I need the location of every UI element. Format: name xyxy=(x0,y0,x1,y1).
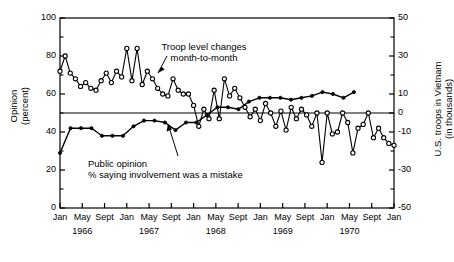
troop-series-point xyxy=(217,117,221,121)
troop-series-point xyxy=(310,124,314,128)
troop-series-point xyxy=(371,136,375,140)
troop-series-point xyxy=(341,111,345,115)
troop-series-point xyxy=(181,92,185,96)
troop-series-point xyxy=(330,132,334,136)
opinion-series-point xyxy=(58,151,61,154)
troop-series-point xyxy=(84,81,88,85)
troop-series-point xyxy=(284,128,288,132)
troop-series-point xyxy=(192,103,196,107)
troop-series-point xyxy=(356,126,360,130)
opinion-series-point xyxy=(352,91,355,94)
troop-series-point xyxy=(150,77,154,81)
troop-series-point xyxy=(392,143,396,147)
troop-series-point xyxy=(135,46,139,50)
troop-series-point xyxy=(366,111,370,115)
troop-series-point xyxy=(104,71,108,75)
troop-series-point xyxy=(325,111,329,115)
troop-series-point xyxy=(279,109,283,113)
troop-series-point xyxy=(186,92,190,96)
troop-series-point xyxy=(248,115,252,119)
troop-series-point xyxy=(140,82,144,86)
opinion-series-point xyxy=(90,127,93,130)
troop-series-point xyxy=(320,160,324,164)
opinion-series-point xyxy=(289,98,292,101)
troop-series-point xyxy=(94,88,98,92)
troop-series-point xyxy=(166,94,170,98)
troop-series-point xyxy=(269,111,273,115)
opinion-series-point xyxy=(279,96,282,99)
troop-series-point xyxy=(109,81,113,85)
troop-series-point xyxy=(125,46,129,50)
troop-series-point xyxy=(351,151,355,155)
opinion-series-point xyxy=(121,134,124,137)
opinion-series-point xyxy=(247,100,250,103)
troop-series-point xyxy=(202,107,206,111)
troop-series-point xyxy=(294,117,298,121)
opinion-series-point xyxy=(132,125,135,128)
opinion-series-point xyxy=(174,129,177,132)
troop-series-line xyxy=(60,48,394,162)
troop-series-point xyxy=(305,113,309,117)
troop-series-point xyxy=(274,124,278,128)
troop-series-point xyxy=(114,69,118,73)
troop-series-point xyxy=(346,120,350,124)
troop-series-point xyxy=(161,92,165,96)
opinion-series-point xyxy=(100,134,103,137)
opinion-series-point xyxy=(184,121,187,124)
troop-series-point xyxy=(238,96,242,100)
troop-series-point xyxy=(120,75,124,79)
opinion-series-point xyxy=(226,106,229,109)
troop-series-point xyxy=(233,86,237,90)
troop-series-point xyxy=(382,136,386,140)
opinion-series-point xyxy=(310,94,313,97)
opinion-series-point xyxy=(237,108,240,111)
troop-series-point xyxy=(387,141,391,145)
troop-series-point xyxy=(63,54,67,58)
troop-series-point xyxy=(58,69,62,73)
opinion-series-point xyxy=(195,121,198,124)
opinion-series-point xyxy=(111,134,114,137)
troop-series-point xyxy=(299,107,303,111)
opinion-series-point xyxy=(79,127,82,130)
opinion-series-point xyxy=(321,91,324,94)
troop-series-point xyxy=(78,84,82,88)
troop-series-point xyxy=(176,88,180,92)
opinion-series-point xyxy=(258,96,261,99)
opinion-series-point xyxy=(216,106,219,109)
troop-series-point xyxy=(73,77,77,81)
troop-series-point xyxy=(68,71,72,75)
troop-series-point xyxy=(89,86,93,90)
troop-annotation-arrowhead xyxy=(158,67,165,74)
troop-series-point xyxy=(376,126,380,130)
opinion-series-point xyxy=(300,96,303,99)
troop-series-point xyxy=(335,130,339,134)
troop-series-point xyxy=(263,101,267,105)
troop-series-point xyxy=(222,77,226,81)
opinion-series-point xyxy=(268,96,271,99)
opinion-series-point xyxy=(163,121,166,124)
troop-series-point xyxy=(99,79,103,83)
troop-series-point xyxy=(315,111,319,115)
opinion-series-point xyxy=(153,119,156,122)
opinion-series-point xyxy=(205,113,208,116)
opinion-series-point xyxy=(331,92,334,95)
troop-series-point xyxy=(145,69,149,73)
troop-series-point xyxy=(361,122,365,126)
troop-series-point xyxy=(289,105,293,109)
troop-series-point xyxy=(207,117,211,121)
opinion-series-point xyxy=(342,96,345,99)
opinion-series-point xyxy=(142,119,145,122)
troop-series-point xyxy=(212,88,216,92)
troop-series-point xyxy=(156,86,160,90)
troop-series-point xyxy=(197,124,201,128)
troop-series-point xyxy=(130,79,134,83)
opinion-series-point xyxy=(69,127,72,130)
troop-series-point xyxy=(171,77,175,81)
troop-series-point xyxy=(258,119,262,123)
troop-series-point xyxy=(253,107,257,111)
troop-series-point xyxy=(227,94,231,98)
